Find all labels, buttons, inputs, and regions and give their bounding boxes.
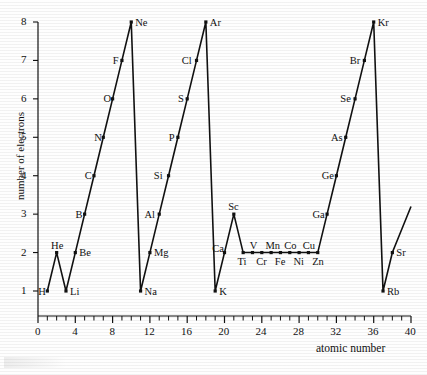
element-label-ge: Ge <box>322 170 334 181</box>
y-tick-label: 6 <box>21 92 27 104</box>
data-point-marker <box>214 289 217 292</box>
element-label-be: Be <box>79 247 91 258</box>
data-point-marker <box>363 59 366 62</box>
data-point-marker <box>195 59 198 62</box>
element-label-br: Br <box>350 55 361 66</box>
element-label-o: O <box>104 93 112 104</box>
element-label-cl: Cl <box>182 55 192 66</box>
data-point-marker <box>270 251 273 254</box>
y-tick-label: 1 <box>21 284 27 296</box>
element-label-k: K <box>219 286 227 297</box>
y-tick-label: 3 <box>21 207 27 219</box>
data-point-marker <box>204 20 207 23</box>
element-label-sr: Sr <box>396 247 405 258</box>
data-point-marker <box>83 213 86 216</box>
data-point-marker <box>130 20 133 23</box>
data-point-marker <box>74 251 77 254</box>
element-label-cu: Cu <box>303 240 315 251</box>
x-tick-label: 8 <box>110 325 116 337</box>
x-tick-label: 4 <box>72 325 78 337</box>
x-tick-label: 40 <box>405 325 416 337</box>
x-tick-label: 24 <box>256 325 267 337</box>
data-point-marker <box>251 251 254 254</box>
element-label-h: H <box>38 286 46 297</box>
data-point-marker <box>46 289 49 292</box>
data-point-marker <box>381 289 384 292</box>
element-label-c: C <box>85 170 92 181</box>
data-point-marker <box>298 251 301 254</box>
element-label-v: V <box>250 240 258 251</box>
element-label-se: Se <box>340 93 351 104</box>
data-point-marker <box>335 174 338 177</box>
electron-shell-chart-figure: HHeLiBeBCNOFNeNaMgAlSiPSClArKCaScTiVCrMn… <box>0 0 427 375</box>
element-label-mg: Mg <box>154 247 169 258</box>
data-point-marker <box>260 251 263 254</box>
data-point-marker <box>344 136 347 139</box>
element-label-n: N <box>94 132 102 143</box>
x-tick-label: 20 <box>218 325 229 337</box>
chart-plot-area <box>0 0 427 375</box>
data-point-marker <box>139 289 142 292</box>
element-label-he: He <box>51 240 63 251</box>
element-label-mn: Mn <box>266 240 281 251</box>
data-point-marker <box>372 20 375 23</box>
element-label-ni: Ni <box>294 256 305 267</box>
element-label-ti: Ti <box>238 256 247 267</box>
data-point-marker <box>158 213 161 216</box>
element-label-f: F <box>113 55 119 66</box>
page-edge-smudge <box>4 357 66 368</box>
data-point-marker <box>307 251 310 254</box>
element-label-zn: Zn <box>312 256 324 267</box>
element-label-s: S <box>178 93 184 104</box>
element-label-si: Si <box>154 170 163 181</box>
data-point-marker <box>120 59 123 62</box>
data-point-marker <box>391 251 394 254</box>
element-label-ca: Ca <box>212 243 224 254</box>
x-tick-label: 16 <box>181 325 192 337</box>
x-tick-label: 12 <box>144 325 155 337</box>
data-point-marker <box>242 251 245 254</box>
element-label-kr: Kr <box>378 17 389 28</box>
data-point-marker <box>55 251 58 254</box>
data-point-marker <box>316 251 319 254</box>
element-label-rb: Rb <box>387 286 399 297</box>
element-label-as: As <box>331 132 343 143</box>
element-label-cr: Cr <box>256 256 267 267</box>
data-point-marker <box>64 289 67 292</box>
x-axis-ticks <box>38 316 411 323</box>
element-label-b: B <box>76 209 83 220</box>
data-point-marker <box>148 251 151 254</box>
data-point-marker <box>102 136 105 139</box>
data-point-marker <box>167 174 170 177</box>
element-label-al: Al <box>145 209 156 220</box>
element-label-li: Li <box>70 286 79 297</box>
y-tick-label: 2 <box>21 246 27 258</box>
element-label-p: P <box>169 132 175 143</box>
element-label-sc: Sc <box>228 201 239 212</box>
x-tick-label: 32 <box>330 325 341 337</box>
data-point-marker <box>279 251 282 254</box>
element-label-ne: Ne <box>135 17 147 28</box>
data-point-marker <box>111 97 114 100</box>
element-label-ar: Ar <box>210 17 221 28</box>
y-tick-label: 8 <box>21 15 27 27</box>
y-tick-label: 7 <box>21 53 27 65</box>
element-label-co: Co <box>284 240 296 251</box>
element-label-fe: Fe <box>275 256 286 267</box>
x-axis-title: atomic number <box>316 342 385 354</box>
x-tick-label: 0 <box>35 325 41 337</box>
data-point-marker <box>232 213 235 216</box>
data-point-marker <box>92 174 95 177</box>
data-point-marker <box>325 213 328 216</box>
element-label-ga: Ga <box>312 209 324 220</box>
y-axis-title: number of electrons <box>14 112 26 200</box>
data-point-marker <box>288 251 291 254</box>
y-axis-ticks <box>33 22 38 291</box>
axis-lines <box>38 22 411 316</box>
x-tick-label: 28 <box>293 325 304 337</box>
x-tick-label: 36 <box>368 325 379 337</box>
data-point-marker <box>176 136 179 139</box>
data-point-marker <box>186 97 189 100</box>
element-label-na: Na <box>145 286 157 297</box>
data-point-marker <box>353 97 356 100</box>
